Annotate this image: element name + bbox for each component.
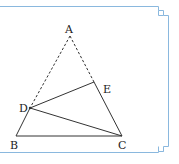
- label-B: B: [10, 139, 18, 152]
- label-D: D: [19, 102, 28, 115]
- label-E: E: [103, 83, 111, 96]
- label-A: A: [64, 23, 74, 36]
- segment-AE: [70, 36, 94, 82]
- segment-DC: [30, 108, 122, 136]
- decorative-frame: [0, 7, 169, 153]
- label-C: C: [118, 139, 126, 152]
- segment-DE: [30, 82, 94, 108]
- segment-AD: [30, 36, 70, 108]
- geometry-diagram: A B C D E: [0, 0, 179, 164]
- point-D-dot: [29, 107, 31, 109]
